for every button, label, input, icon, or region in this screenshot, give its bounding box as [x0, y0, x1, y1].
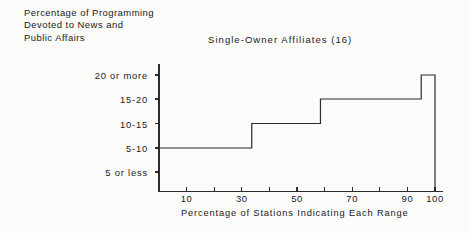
step-line-series — [159, 75, 435, 192]
plot-area — [0, 0, 469, 233]
axis-lines — [159, 64, 443, 192]
chart-figure: Percentage of Programming Devoted to New… — [0, 0, 469, 233]
y-axis-tick-marks — [155, 75, 160, 172]
x-axis-tick-marks — [187, 187, 435, 192]
